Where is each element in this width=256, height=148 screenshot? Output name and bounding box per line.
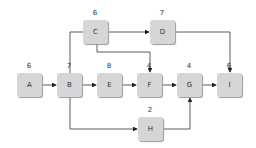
duration-label-d: 7 <box>152 9 172 17</box>
node-f: F <box>137 73 162 97</box>
node-e: E <box>97 73 122 97</box>
duration-label-a: 6 <box>19 62 39 70</box>
duration-label-f: 4 <box>139 62 159 70</box>
duration-label-e: 8 <box>99 62 119 70</box>
node-i: I <box>217 73 242 97</box>
duration-label-g: 4 <box>179 62 199 70</box>
node-c: C <box>83 20 108 44</box>
node-h: H <box>138 117 163 141</box>
node-g: G <box>177 73 202 97</box>
duration-label-c: 6 <box>85 9 105 17</box>
duration-label-h: 2 <box>140 106 160 114</box>
duration-label-i: 6 <box>219 62 239 70</box>
node-a: A <box>17 73 42 97</box>
edge-h-g <box>164 98 190 129</box>
edge-b-h <box>70 97 137 129</box>
node-b: B <box>57 73 82 97</box>
duration-label-b: 7 <box>59 62 79 70</box>
node-d: D <box>150 20 175 44</box>
